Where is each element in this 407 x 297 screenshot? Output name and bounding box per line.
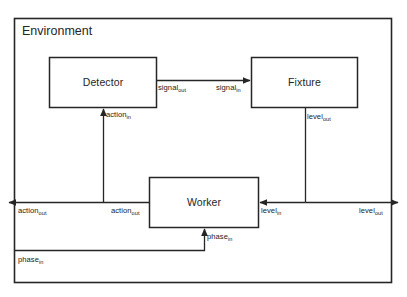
action-out-inner-label-sub: out (132, 210, 140, 216)
level-out-boundary-label: levelout (359, 206, 383, 215)
level-out-fixture-label-text: level (307, 112, 323, 121)
action-in-label-text: action (106, 110, 127, 119)
action-out-inner-label-text: action (111, 206, 132, 215)
action-in-label-sub: in (127, 114, 131, 120)
action-in-label: actionin (106, 110, 131, 119)
phase-in-boundary-label-text: phase (18, 255, 39, 264)
level-in-label: levelin (261, 206, 281, 215)
diagram-graphics (0, 0, 407, 297)
action-out-boundary-label-text: action (18, 206, 39, 215)
level-out-boundary-label-text: level (359, 206, 375, 215)
action-out-inner-label: actionout (111, 206, 140, 215)
fixture-label: Fixture (251, 76, 358, 88)
signal-in-label-sub: in (236, 87, 240, 93)
level-out-boundary-label-sub: out (375, 210, 383, 216)
phase-in-boundary-label-sub: in (39, 259, 43, 265)
phase-in-worker-label-sub: in (228, 236, 232, 242)
level-in-label-sub: in (277, 210, 281, 216)
level-out-fixture-label-sub: out (323, 116, 331, 122)
level-in-label-text: level (261, 206, 277, 215)
worker-label: Worker (149, 196, 259, 208)
signal-in-label-text: signal (216, 83, 236, 92)
phase-in-worker-label-text: phase (207, 232, 228, 241)
signal-out-label-sub: out (178, 87, 186, 93)
action-out-boundary-label-sub: out (39, 210, 47, 216)
environment-title: Environment (22, 24, 92, 38)
phase-in-boundary-label: phasein (18, 255, 43, 264)
level-out-fixture-label: levelout (307, 112, 331, 121)
signal-in-label: signalin (216, 83, 241, 92)
edge-phase-in-to-worker (15, 229, 205, 251)
diagram-canvas: Environment Detector Fixture Worker sign… (0, 0, 407, 297)
action-out-boundary-label: actionout (18, 206, 47, 215)
detector-label: Detector (49, 76, 157, 88)
signal-out-label: signalout (158, 83, 186, 92)
phase-in-worker-label: phasein (207, 232, 232, 241)
signal-out-label-text: signal (158, 83, 178, 92)
